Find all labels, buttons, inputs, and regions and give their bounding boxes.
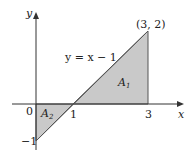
tick-x-3: 3: [145, 108, 152, 121]
line-label: y = x − 1: [64, 51, 117, 64]
origin-label: 0: [26, 105, 33, 118]
y-axis-arrow-icon: [33, 12, 39, 19]
diagram: y x 0 1 3 −1 (3, 2) y = x − 1 A1 A2: [0, 0, 193, 159]
y-axis-label: y: [25, 7, 33, 20]
x-axis-arrow-icon: [177, 101, 184, 107]
point-label: (3, 2): [136, 18, 166, 31]
x-axis-label: x: [178, 108, 185, 121]
tick-y-minus-1: −1: [21, 135, 37, 148]
tick-x-1: 1: [70, 108, 77, 121]
